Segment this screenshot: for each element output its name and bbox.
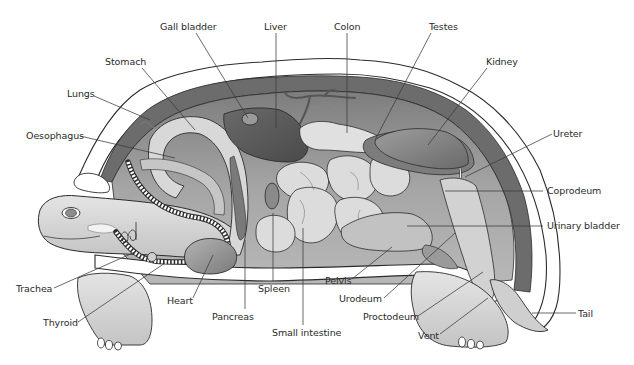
heart bbox=[184, 238, 236, 274]
label-thyroid: Thyroid bbox=[43, 317, 78, 328]
label-tail: Tail bbox=[578, 308, 593, 319]
gall-bladder bbox=[242, 113, 258, 125]
label-small-intestine: Small intestine bbox=[272, 327, 341, 338]
label-pancreas: Pancreas bbox=[212, 311, 254, 322]
label-oesophagus: Oesophagus bbox=[26, 130, 84, 141]
label-urodeum: Urodeum bbox=[339, 293, 382, 304]
label-lungs: Lungs bbox=[67, 88, 95, 99]
label-proctodeum: Proctodeum bbox=[363, 311, 419, 322]
label-urinary-bladder: Urinary bladder bbox=[547, 220, 620, 231]
label-gall-bladder: Gall bladder bbox=[160, 21, 217, 32]
label-coprodeum: Coprodeum bbox=[547, 185, 601, 196]
label-spleen: Spleen bbox=[258, 283, 290, 294]
label-trachea: Trachea bbox=[16, 283, 52, 294]
tortoise-anatomy-diagram: Gall bladder Liver Colon Testes Kidney S… bbox=[0, 0, 634, 365]
label-ureter: Ureter bbox=[553, 128, 582, 139]
label-liver: Liver bbox=[264, 21, 287, 32]
label-testes: Testes bbox=[429, 21, 458, 32]
label-kidney: Kidney bbox=[486, 56, 518, 67]
eye-icon bbox=[62, 208, 80, 219]
front-leg bbox=[77, 273, 152, 345]
spleen bbox=[265, 183, 279, 209]
tortoise-illustration bbox=[0, 0, 634, 365]
label-heart: Heart bbox=[167, 295, 193, 306]
label-vent: Vent bbox=[418, 330, 439, 341]
label-stomach: Stomach bbox=[105, 56, 146, 67]
label-colon: Colon bbox=[334, 21, 360, 32]
label-pelvis: Pelvis bbox=[325, 275, 352, 286]
thyroid bbox=[148, 253, 157, 262]
